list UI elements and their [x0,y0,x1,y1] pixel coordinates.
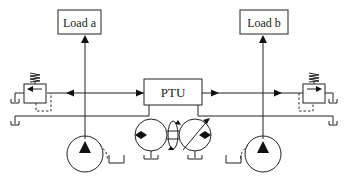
arrow-left-icon [27,86,33,92]
arrow-up-icon [259,35,267,43]
return-line-left [15,105,149,124]
arrow-left-icon [66,90,74,97]
arrow-right-icon [211,90,219,97]
arrow-right-icon [316,86,322,92]
spring-icon [30,73,40,82]
pump-b [226,136,281,172]
arrow-right-icon [136,90,144,97]
load-a-label: Load a [63,16,97,30]
return-line-right [198,105,333,124]
pump-a [67,136,124,172]
ptu-motor-pump [135,118,211,159]
tank-icon [109,155,124,163]
ptu-box: PTU [144,79,202,105]
load-a-box: Load a [58,10,101,34]
arrow-up-icon [81,35,89,43]
load-b-box: Load b [240,10,288,34]
hydraulic-diagram: Load a Load b PTU [0,0,349,184]
pump-triangle-icon [79,141,91,153]
relief-valve-b [299,73,337,111]
pump-triangle-icon [257,141,269,153]
ptu-label: PTU [161,85,186,100]
relief-valve-a [11,73,51,111]
arrow-right-icon [274,90,282,97]
tank-icon [226,155,241,163]
rotation-icon [168,121,178,149]
load-b-label: Load b [247,16,281,30]
spring-icon [309,73,319,82]
